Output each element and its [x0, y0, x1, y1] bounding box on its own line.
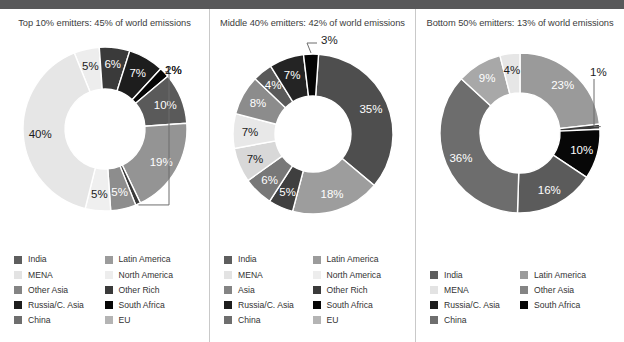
figure-root: Top 10% emitters: 45% of world emissions… [0, 0, 624, 342]
legend-item[interactable]: Russia/C. Asia [430, 298, 520, 313]
legend-label: India [238, 255, 257, 264]
donut-chart-middle-40: 35%18%5%6%7%7%8%4%7%3% [210, 29, 415, 244]
callout-leader-line [307, 43, 317, 53]
legend-label: Russia/C. Asia [28, 301, 84, 310]
slice-value-label: 16% [538, 184, 561, 196]
legend-swatch [430, 316, 438, 324]
legend-swatch [224, 301, 232, 309]
donut-svg: 23%1%10%16%36%9%4% [420, 29, 620, 241]
slice-value-label: 7% [283, 69, 300, 81]
slice-value-label: 36% [449, 152, 472, 164]
panel-top-10: Top 10% emitters: 45% of world emissions… [0, 9, 209, 342]
legend-swatch [14, 271, 22, 279]
legend-item[interactable]: India [224, 252, 313, 267]
panel-bottom-50: Bottom 50% emitters: 13% of world emissi… [415, 9, 624, 342]
legend-item[interactable]: Other Rich [105, 282, 196, 297]
legend-swatch [313, 271, 321, 279]
legend-label: Latin America [327, 255, 379, 264]
legend-item[interactable]: Latin America [105, 252, 196, 267]
slice-value-label: 40% [28, 128, 51, 140]
legend-item[interactable]: EU [105, 313, 196, 328]
legend-label: Other Asia [28, 286, 68, 295]
legend-item[interactable]: EU [313, 313, 402, 328]
slice-value-label: 7% [246, 153, 263, 165]
slice-callout-label: 1% [590, 66, 607, 78]
slice-value-label: 5% [82, 60, 99, 72]
slice-value-label: 4% [504, 64, 521, 76]
legend-label: North America [327, 271, 381, 280]
legend-item[interactable]: Asia [224, 282, 313, 297]
top-banner-bar [0, 0, 624, 9]
panel-title: Bottom 50% emitters: 13% of world emissi… [416, 18, 624, 28]
donut-slice[interactable] [440, 79, 519, 213]
legend-swatch [14, 256, 22, 264]
donut-svg: 5%6%7%2%10%19%1%5%5%40% [5, 29, 205, 241]
legend-swatch [430, 301, 438, 309]
legend-column: Latin AmericaNorth AmericaOther RichSout… [105, 252, 196, 328]
donut-slice[interactable] [315, 54, 392, 185]
slice-value-label: 18% [320, 188, 343, 200]
legend-item[interactable]: India [14, 252, 105, 267]
legend-label: MENA [444, 286, 469, 295]
slice-callout-label: 1% [165, 64, 182, 76]
slice-value-label: 23% [551, 79, 574, 91]
legend-item[interactable]: India [430, 267, 520, 282]
legend-swatch [14, 316, 22, 324]
legend-item[interactable]: China [224, 313, 313, 328]
legend-swatch [105, 256, 113, 264]
legend-column: IndiaMENARussia/C. AsiaChina [430, 267, 520, 328]
legend-item[interactable]: Latin America [520, 267, 610, 282]
legend-label: MENA [238, 271, 263, 280]
legend-top-10: IndiaMENAOther AsiaRussia/C. AsiaChinaLa… [0, 252, 209, 328]
legend-item[interactable]: North America [105, 267, 196, 282]
slice-value-label: 6% [104, 58, 121, 70]
slice-value-label: 7% [241, 126, 258, 138]
legend-item[interactable]: MENA [14, 267, 105, 282]
legend-item[interactable]: MENA [224, 267, 313, 282]
legend-label: South Africa [119, 301, 165, 310]
legend-item[interactable]: Latin America [313, 252, 402, 267]
legend-label: EU [119, 316, 131, 325]
legend-swatch [105, 271, 113, 279]
legend-item[interactable]: North America [313, 267, 402, 282]
legend-item[interactable]: South Africa [105, 298, 196, 313]
legend-swatch [520, 286, 528, 294]
legend-item[interactable]: Other Rich [313, 282, 402, 297]
legend-columns: IndiaMENAAsiaRussia/C. AsiaChinaLatin Am… [224, 252, 401, 328]
slice-value-label: 6% [261, 174, 278, 186]
legend-item[interactable]: South Africa [520, 298, 610, 313]
legend-swatch [14, 286, 22, 294]
legend-swatch [520, 271, 528, 279]
legend-item[interactable]: Russia/C. Asia [224, 298, 313, 313]
slice-value-label: 8% [249, 97, 266, 109]
legend-swatch [313, 301, 321, 309]
donut-chart-top-10: 5%6%7%2%10%19%1%5%5%40% [0, 29, 209, 244]
legend-swatch [430, 286, 438, 294]
legend-item[interactable]: MENA [430, 282, 520, 297]
legend-item[interactable]: Other Asia [520, 282, 610, 297]
legend-label: North America [119, 271, 173, 280]
legend-swatch [105, 286, 113, 294]
legend-item[interactable]: South Africa [313, 298, 402, 313]
legend-item[interactable]: Russia/C. Asia [14, 298, 105, 313]
legend-label: China [238, 316, 260, 325]
legend-label: Asia [238, 286, 255, 295]
panel-middle-40: Middle 40% emitters: 42% of world emissi… [209, 9, 415, 342]
legend-item[interactable]: Other Asia [14, 282, 105, 297]
legend-label: Russia/C. Asia [238, 301, 294, 310]
legend-swatch [224, 256, 232, 264]
panels-container: Top 10% emitters: 45% of world emissions… [0, 9, 624, 342]
donut-svg: 35%18%5%6%7%7%8%4%7%3% [213, 29, 413, 241]
slice-value-label: 5% [91, 188, 108, 200]
legend-label: Other Asia [534, 286, 574, 295]
legend-column: IndiaMENAOther AsiaRussia/C. AsiaChina [14, 252, 105, 328]
legend-item[interactable]: China [430, 313, 520, 328]
legend-swatch [430, 271, 438, 279]
legend-swatch [313, 286, 321, 294]
legend-label: Latin America [119, 255, 171, 264]
legend-swatch [105, 301, 113, 309]
legend-swatch [313, 256, 321, 264]
legend-item[interactable]: China [14, 313, 105, 328]
legend-bottom-50: IndiaMENARussia/C. AsiaChinaLatin Americ… [416, 267, 624, 328]
legend-swatch [224, 286, 232, 294]
